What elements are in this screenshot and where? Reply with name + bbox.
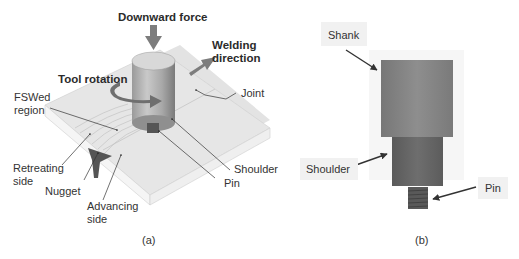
label-fswed-region: FSWed region	[14, 91, 50, 117]
label-shank: Shank	[328, 29, 359, 41]
label-advancing-side: Advancing side	[87, 200, 138, 226]
shank-body	[381, 60, 453, 137]
caption-b: (b)	[415, 234, 428, 246]
label-pin-b: Pin	[485, 182, 501, 194]
label-downward-force: Downward force	[118, 11, 207, 23]
label-welding-direction: Welding direction	[212, 39, 261, 65]
caption-a: (a)	[142, 234, 155, 246]
downward-force-arrow	[145, 25, 162, 50]
label-shoulder-a: Shoulder	[234, 163, 278, 175]
label-nugget: Nugget	[45, 185, 80, 197]
label-pin-a: Pin	[224, 177, 240, 189]
shoulder-body	[392, 137, 443, 186]
tool-photo	[369, 50, 464, 209]
label-shoulder-b: Shoulder	[306, 163, 350, 175]
fsw-figure: Downward force Welding direction Tool ro…	[0, 0, 519, 259]
pin-arrow	[433, 187, 476, 199]
label-joint: Joint	[241, 87, 264, 99]
label-tool-rotation: Tool rotation	[58, 73, 127, 85]
